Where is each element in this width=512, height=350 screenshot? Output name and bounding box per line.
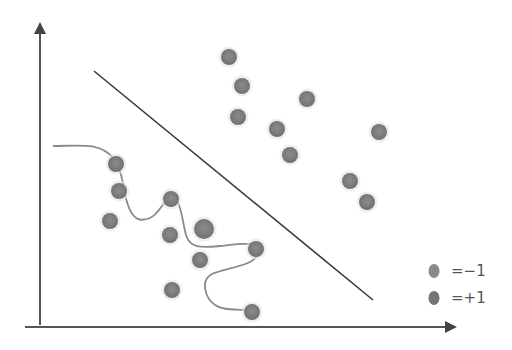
data-point <box>230 109 246 125</box>
data-point <box>162 227 178 243</box>
data-point <box>299 91 315 107</box>
legend-label-plus-one: =+1 <box>451 289 486 307</box>
y-axis-arrow-icon <box>34 22 46 34</box>
nonlinear-decision-boundary <box>53 146 258 311</box>
data-point <box>164 282 180 298</box>
data-point <box>163 191 179 207</box>
x-axis-arrow-icon <box>445 321 457 333</box>
legend-marker-minus-one-icon <box>429 264 440 278</box>
data-point <box>244 304 260 320</box>
data-point <box>371 124 387 140</box>
data-point <box>269 121 285 137</box>
legend-label-minus-one: =−1 <box>451 262 486 280</box>
axes <box>25 22 457 333</box>
data-point <box>359 194 375 210</box>
data-points <box>100 47 390 323</box>
data-point <box>194 219 214 239</box>
data-point <box>221 49 237 65</box>
data-point <box>108 156 124 172</box>
legend-markers <box>429 264 440 305</box>
data-point <box>282 147 298 163</box>
legend-marker-plus-one-icon <box>429 291 440 305</box>
linear-decision-boundary <box>94 71 373 300</box>
data-point <box>111 183 127 199</box>
data-point <box>248 241 264 257</box>
diagram-canvas <box>0 0 512 350</box>
data-point <box>102 213 118 229</box>
data-point <box>234 78 250 94</box>
data-point <box>342 173 358 189</box>
data-point <box>192 252 208 268</box>
